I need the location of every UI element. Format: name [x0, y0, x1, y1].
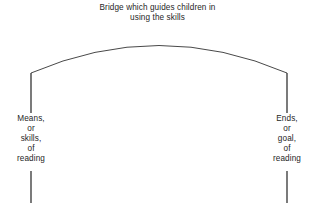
left-pier-label-line-3: skills, [0, 134, 62, 144]
bridge-arc-span [31, 46, 287, 74]
left-pier-label-line-5: reading [0, 154, 62, 164]
right-pier-label-line-5: reading [256, 154, 315, 164]
left-pier-label-line-2: or [0, 124, 62, 134]
bridge-diagram-canvas [0, 0, 315, 212]
bridge-caption-line-2: using the skills [0, 13, 315, 23]
left-pier-label: Means, or skills, of reading [0, 114, 62, 164]
right-pier-label-line-3: goal, [256, 134, 315, 144]
bridge-caption: Bridge which guides children in using th… [0, 3, 315, 23]
left-pier-label-line-4: of [0, 144, 62, 154]
bridge-caption-line-1: Bridge which guides children in [0, 3, 315, 13]
right-pier-label-line-1: Ends, [256, 114, 315, 124]
right-pier-label: Ends, or goal, of reading [256, 114, 315, 164]
left-pier-label-line-1: Means, [0, 114, 62, 124]
right-pier-label-line-2: or [256, 124, 315, 134]
right-pier-label-line-4: of [256, 144, 315, 154]
